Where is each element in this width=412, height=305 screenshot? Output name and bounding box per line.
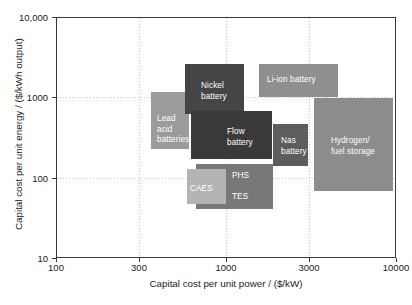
region-label: Lead acid batteries (157, 114, 189, 146)
region-label: Li-ion battery (267, 75, 316, 86)
plot-area: Hydrogen/ fuel storageLead acid batterie… (56, 17, 396, 258)
x-tick-label-10000: 10000 (383, 262, 409, 273)
gridline-vertical-3000 (309, 18, 310, 257)
y-tick-label-100: 100 (32, 173, 48, 184)
y-axis-title: Capital cost per unit energy / ($/kWh ou… (13, 38, 24, 230)
y-tick-label-10: 10 (37, 253, 48, 264)
y-tick-10,000 (52, 17, 56, 18)
y-tick-100 (52, 178, 56, 179)
x-axis-title: Capital cost per unit power / ($/kW) (56, 278, 396, 289)
x-tick-label-100: 100 (48, 262, 64, 273)
region-label: Nas battery (281, 136, 307, 157)
region-label: PHS TES (232, 171, 249, 203)
capital-cost-scatter-chart: Hydrogen/ fuel storageLead acid batterie… (0, 0, 412, 305)
x-tick-label-300: 300 (131, 262, 147, 273)
x-tick-label-3000: 3000 (298, 262, 319, 273)
region-flow-battery: Flow battery (191, 111, 272, 159)
y-tick-1000 (52, 97, 56, 98)
region-label: CAES (190, 184, 213, 195)
region-nas-battery: Nas battery (273, 124, 308, 166)
region-li-ion-battery: Li-ion battery (259, 64, 338, 97)
region-label: Flow battery (227, 127, 272, 148)
region-label: Hydrogen/ fuel storage (331, 136, 375, 157)
gridline-vertical-300 (139, 18, 140, 257)
region-lead-acid-batteries: Lead acid batteries (151, 92, 189, 149)
region-hydrogen-fuel-storage: Hydrogen/ fuel storage (314, 98, 393, 191)
y-tick-label-10,000: 10,000 (19, 12, 48, 23)
region-caes: CAES (187, 169, 226, 204)
y-tick-10 (52, 258, 56, 259)
x-tick-label-1000: 1000 (215, 262, 236, 273)
y-tick-label-1000: 1000 (27, 92, 48, 103)
region-label: Nickel battery (201, 81, 227, 102)
region-nickel-battery: Nickel battery (185, 64, 244, 114)
